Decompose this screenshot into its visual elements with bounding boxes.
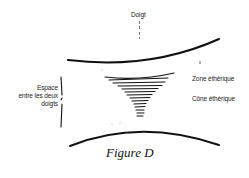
upper-finger-arc bbox=[68, 39, 219, 62]
scan-specks bbox=[102, 70, 128, 133]
figure-d-diagram: Doigt Zone éthérique Cône éthérique Espa… bbox=[0, 0, 249, 178]
etheric-cone-label: Cône éthérique bbox=[192, 95, 235, 103]
space-between-fingers-label: Espace entre les deux doigts bbox=[8, 84, 58, 108]
figure-caption: Figure D bbox=[106, 145, 154, 161]
space-bracket bbox=[61, 77, 62, 127]
etheric-zone-label: Zone éthérique bbox=[192, 75, 234, 83]
finger-label: Doigt bbox=[131, 11, 146, 19]
space-label-line-1: Espace bbox=[8, 84, 58, 92]
space-label-line-3: doigts bbox=[8, 100, 58, 108]
lower-finger-arc bbox=[70, 132, 219, 146]
etheric-cone bbox=[105, 73, 174, 116]
space-label-line-2: entre les deux bbox=[8, 92, 58, 100]
